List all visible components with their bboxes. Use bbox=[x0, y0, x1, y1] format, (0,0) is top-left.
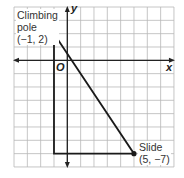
slide-label-line1: Slide bbox=[139, 141, 170, 153]
climbing-pole-coords: (−1, 2) bbox=[17, 33, 58, 45]
climbing-pole-label-line1: Climbing bbox=[17, 9, 58, 21]
x-axis-label: x bbox=[166, 61, 172, 73]
origin-label: O bbox=[56, 61, 65, 73]
slide-label: Slide (5, −7) bbox=[138, 141, 171, 165]
slide-coords: (5, −7) bbox=[139, 153, 170, 165]
climbing-pole-label: Climbing pole (−1, 2) bbox=[16, 9, 59, 45]
climbing-pole-label-line2: pole bbox=[17, 21, 58, 33]
y-axis-label: y bbox=[71, 2, 77, 14]
point-marker bbox=[131, 151, 136, 156]
